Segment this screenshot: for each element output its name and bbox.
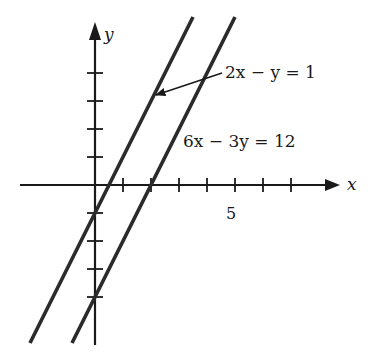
- graph: y x 5 2x − y = 1 6x − 3y = 12: [0, 0, 374, 357]
- line-2x-y-1: [30, 17, 193, 343]
- x-axis: [20, 178, 340, 192]
- leader-arrow-icon: [156, 73, 222, 95]
- x-axis-arrow-icon: [325, 179, 340, 191]
- x-axis-label: x: [347, 174, 357, 194]
- equation-label-2: 6x − 3y = 12: [183, 131, 296, 151]
- y-axis-arrow-icon: [89, 22, 101, 40]
- line-6x-3y-12: [72, 17, 235, 343]
- equation-label-1: 2x − y = 1: [225, 62, 316, 82]
- plot-lines: [30, 17, 235, 343]
- y-axis-label: y: [103, 24, 114, 44]
- x-tick-label-5: 5: [226, 204, 236, 223]
